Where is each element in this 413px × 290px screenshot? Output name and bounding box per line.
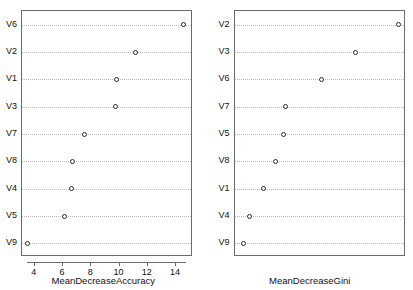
x-axis-tick xyxy=(90,262,91,266)
gridline xyxy=(22,52,191,53)
data-point xyxy=(62,214,67,219)
data-point xyxy=(181,22,186,27)
panel-mean-decrease-accuracy: V6V2V1V3V7V8V4V5V9 468101214 MeanDecreas… xyxy=(0,0,207,290)
gridline xyxy=(235,52,404,53)
y-axis-label: V7 xyxy=(6,129,17,138)
y-axis-label: V2 xyxy=(6,47,17,56)
y-axis-label: V5 xyxy=(6,211,17,220)
x-axis-title-left: MeanDecreaseAccuracy xyxy=(0,276,207,286)
gridline xyxy=(22,107,191,108)
data-point xyxy=(261,186,266,191)
data-point xyxy=(69,186,74,191)
data-point xyxy=(70,159,75,164)
data-point xyxy=(247,214,252,219)
y-axis-label: V6 xyxy=(6,19,17,28)
data-point xyxy=(273,159,278,164)
y-axis-label: V5 xyxy=(218,129,229,138)
gridline xyxy=(235,161,404,162)
plot-area-left xyxy=(22,11,191,255)
y-axis-label: V4 xyxy=(6,183,17,192)
x-axis-left: 468101214 xyxy=(27,262,186,263)
x-axis-tick xyxy=(175,262,176,266)
gridline xyxy=(235,216,404,217)
y-axis-labels-right: V2V3V6V7V5V8V1V4V9 xyxy=(207,10,234,256)
variable-importance-figure: V6V2V1V3V7V8V4V5V9 468101214 MeanDecreas… xyxy=(0,0,413,290)
data-point xyxy=(113,104,118,109)
gridline xyxy=(235,107,404,108)
panel-mean-decrease-gini: V2V3V6V7V5V8V1V4V9 020406080 MeanDecreas… xyxy=(207,0,413,290)
gridline xyxy=(235,134,404,135)
x-axis-tick xyxy=(62,262,63,266)
gridline xyxy=(235,25,404,26)
y-axis-label: V9 xyxy=(6,238,17,247)
data-point xyxy=(25,241,30,246)
x-axis-title-right: MeanDecreaseGini xyxy=(207,276,413,286)
gridline xyxy=(22,216,191,217)
gridline xyxy=(235,189,404,190)
plot-frame-left xyxy=(21,10,192,256)
gridline xyxy=(22,79,191,80)
y-axis-label: V3 xyxy=(6,101,17,110)
y-axis-label: V1 xyxy=(6,74,17,83)
gridline xyxy=(235,243,404,244)
data-point xyxy=(319,77,324,82)
y-axis-label: V9 xyxy=(218,238,229,247)
y-axis-label: V3 xyxy=(218,47,229,56)
data-point xyxy=(396,22,401,27)
x-axis-tick xyxy=(119,262,120,266)
data-point xyxy=(353,50,358,55)
gridline xyxy=(22,243,191,244)
x-axis-tick xyxy=(34,262,35,266)
y-axis-label: V4 xyxy=(218,211,229,220)
y-axis-label: V6 xyxy=(218,74,229,83)
plot-frame-right xyxy=(234,10,405,256)
data-point xyxy=(82,132,87,137)
y-axis-label: V8 xyxy=(218,156,229,165)
y-axis-labels-left: V6V2V1V3V7V8V4V5V9 xyxy=(0,10,21,256)
data-point xyxy=(114,77,119,82)
y-axis-label: V7 xyxy=(218,101,229,110)
data-point xyxy=(133,50,138,55)
y-axis-label: V8 xyxy=(6,156,17,165)
gridline xyxy=(22,25,191,26)
y-axis-label: V1 xyxy=(218,183,229,192)
gridline xyxy=(22,161,191,162)
data-point xyxy=(241,241,246,246)
data-point xyxy=(281,132,286,137)
data-point xyxy=(283,104,288,109)
gridline xyxy=(22,189,191,190)
x-axis-tick xyxy=(147,262,148,266)
plot-area-right xyxy=(235,11,404,255)
gridline xyxy=(22,134,191,135)
y-axis-label: V2 xyxy=(218,19,229,28)
